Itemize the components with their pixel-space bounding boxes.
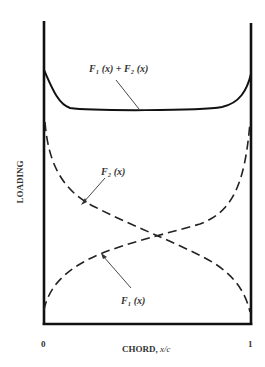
sum-curve xyxy=(44,70,251,110)
f1-arrowhead-icon xyxy=(101,253,107,259)
x-tick-1: 1 xyxy=(248,339,253,349)
f2-leader-line xyxy=(83,178,105,203)
f1-curve xyxy=(44,122,250,310)
x-axis-label-main: CHORD, xyxy=(122,344,160,354)
y-axis-label: LOADING xyxy=(15,160,25,203)
sum-leader-line xyxy=(116,80,139,109)
x-tick-0: 0 xyxy=(41,339,46,349)
x-axis-label: CHORD, x/c xyxy=(122,344,171,354)
x-axis-label-var: x/c xyxy=(159,344,171,354)
f1-leader-line xyxy=(103,256,131,288)
sum-curve-label: F₁ (x) + F₂ (x) xyxy=(88,63,148,75)
f1-curve-label: F₁ (x) xyxy=(120,295,145,307)
loading-diagram: F₁ (x) + F₂ (x) F₂ (x) F₁ (x) LOADING 0 … xyxy=(0,0,265,367)
f2-curve-label: F₂ (x) xyxy=(100,166,125,178)
f2-curve xyxy=(45,122,250,312)
